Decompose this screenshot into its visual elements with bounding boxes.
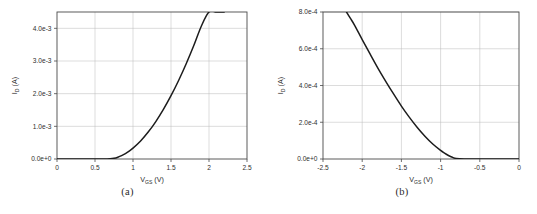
y-tick-label: 2.0e-3 — [33, 90, 52, 97]
y-axis-title-unit: (A) — [276, 77, 285, 89]
plot-frame — [57, 12, 247, 159]
x-axis-title: VGS (V) — [409, 175, 433, 185]
y-axis-title-unit: (A) — [10, 77, 19, 89]
x-tick-label: -2.5 — [317, 164, 329, 171]
panel-caption-b: (b) — [267, 186, 537, 197]
y-tick-label: 1.0e-3 — [33, 123, 52, 130]
y-tick-label: 6.0e-4 — [299, 45, 318, 52]
x-tick-label: 1.5 — [166, 164, 175, 171]
y-tick-label: 0.0e+0 — [297, 155, 318, 162]
y-axis-title: ID (A) — [276, 77, 286, 94]
figure-root: 00.511.522.50.0e+01.0e-32.0e-33.0e-34.0e… — [0, 0, 537, 214]
x-axis-title-unit: (V) — [421, 175, 433, 184]
x-tick-label: 2.5 — [242, 164, 251, 171]
y-tick-label: 8.0e-4 — [299, 8, 318, 15]
y-tick-label: 2.0e-4 — [299, 119, 318, 126]
data-curve — [57, 11, 224, 159]
plot-area-b: -2.5-2-1.5-1-0.500.0e+02.0e-44.0e-46.0e-… — [267, 0, 537, 182]
x-tick-label: 2 — [207, 164, 211, 171]
chart-panel-b: -2.5-2-1.5-1-0.500.0e+02.0e-44.0e-46.0e-… — [267, 0, 537, 214]
x-tick-label: 0.5 — [90, 164, 99, 171]
plot-area-a: 00.511.522.50.0e+01.0e-32.0e-33.0e-34.0e… — [0, 0, 267, 182]
y-tick-label: 4.0e-3 — [33, 25, 52, 32]
x-axis-title-unit: (V) — [152, 175, 164, 184]
x-tick-label: -0.5 — [474, 164, 486, 171]
x-tick-label: 0 — [517, 164, 521, 171]
chart-panel-a: 00.511.522.50.0e+01.0e-32.0e-33.0e-34.0e… — [0, 0, 267, 214]
y-axis-title: ID (A) — [10, 77, 20, 94]
y-tick-label: 0.0e+0 — [31, 155, 52, 162]
x-axis-title: VGS (V) — [140, 175, 164, 185]
y-tick-label: 3.0e-3 — [33, 57, 52, 64]
x-tick-label: 1 — [131, 164, 135, 171]
x-tick-label: -2 — [359, 164, 365, 171]
x-tick-label: 0 — [55, 164, 59, 171]
y-tick-label: 4.0e-4 — [299, 82, 318, 89]
panel-caption-a: (a) — [0, 186, 261, 197]
x-tick-label: -1.5 — [396, 164, 408, 171]
x-tick-label: -1 — [438, 164, 444, 171]
